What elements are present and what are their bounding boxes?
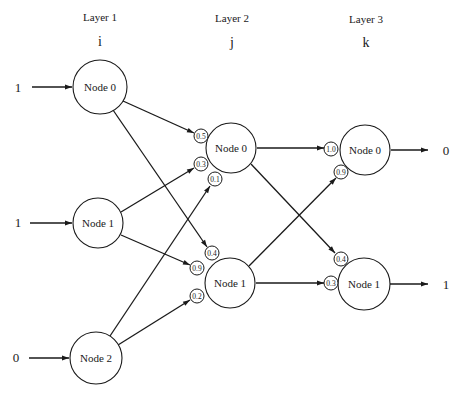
layer1-node-0: Node 0: [73, 60, 127, 114]
edge-l2n1-l3n0: [249, 178, 336, 266]
svg-text:Node 1: Node 1: [348, 278, 380, 290]
layer1-node-1: Node 1: [73, 198, 123, 248]
layer-2-index: j: [229, 35, 234, 50]
layer-3-index: k: [363, 35, 370, 50]
weight-l2n0-0.1: 0.1: [208, 172, 222, 186]
layer-3-header: Layer 3 k: [349, 13, 383, 50]
svg-text:0.3: 0.3: [326, 279, 336, 288]
svg-text:Node 0: Node 0: [84, 81, 117, 93]
layer2-node-1: Node 1: [205, 258, 255, 308]
output-1-label: 1: [443, 277, 450, 292]
layer3-node-1: Node 1: [338, 258, 390, 310]
input-0-label: 1: [15, 80, 22, 95]
edge-l1n0-l2n0: [123, 101, 194, 133]
layer-1-title: Layer 1: [83, 11, 117, 23]
input-1-label: 1: [15, 215, 22, 230]
output-0-label: 0: [443, 143, 450, 158]
svg-text:Node 0: Node 0: [215, 142, 248, 154]
svg-text:Node 1: Node 1: [82, 217, 114, 229]
weight-l2n1-0.4: 0.4: [205, 246, 219, 260]
edge-l1n1-l2n1: [121, 235, 190, 265]
layer2-node-0: Node 0: [206, 123, 256, 173]
svg-text:0.3: 0.3: [196, 160, 206, 169]
layer-1-header: Layer 1 i: [83, 11, 117, 49]
weight-l2n0-0.3: 0.3: [194, 157, 208, 171]
weight-l2n1-0.2: 0.2: [190, 289, 204, 303]
svg-text:0.1: 0.1: [210, 175, 220, 184]
svg-text:0.4: 0.4: [336, 255, 346, 264]
weight-l3n1-0.3: 0.3: [324, 276, 338, 290]
weight-l3n1-0.4: 0.4: [334, 252, 348, 266]
svg-text:0.9: 0.9: [336, 168, 346, 177]
layer1-node-2: Node 2: [70, 332, 122, 384]
neural-network-diagram: Layer 1 i Layer 2 j Layer 3 k 1 1 0 0 1 …: [0, 0, 463, 394]
weight-l3n0-0.9: 0.9: [334, 165, 348, 179]
weight-l2n0-0.5: 0.5: [194, 129, 208, 143]
svg-text:0.2: 0.2: [192, 292, 202, 301]
svg-text:0.9: 0.9: [192, 264, 202, 273]
layer-1-index: i: [98, 34, 102, 49]
layer-2-header: Layer 2 j: [215, 12, 249, 50]
layer-3-title: Layer 3: [349, 13, 383, 25]
svg-text:0.5: 0.5: [196, 132, 206, 141]
svg-text:1.0: 1.0: [326, 145, 336, 154]
input-2-label: 0: [13, 350, 20, 365]
svg-text:Node 0: Node 0: [349, 144, 382, 156]
svg-text:Node 1: Node 1: [214, 277, 246, 289]
edge-l2n0-l3n1: [251, 164, 335, 253]
layer3-node-0: Node 0: [340, 125, 390, 175]
weight-l2n1-0.9: 0.9: [190, 261, 204, 275]
edge-l1n0-l2n1: [113, 110, 207, 247]
svg-text:Node 2: Node 2: [80, 352, 112, 364]
weight-l3n0-1.0: 1.0: [324, 142, 338, 156]
svg-text:0.4: 0.4: [207, 249, 217, 258]
layer-2-title: Layer 2: [215, 12, 249, 24]
